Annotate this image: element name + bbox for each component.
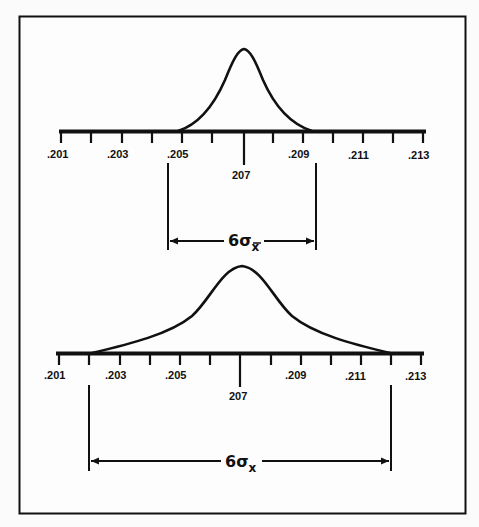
tick-label-205: .205 bbox=[167, 148, 188, 160]
tick-label-207-center: 207 bbox=[229, 390, 247, 402]
tick-label-205: .205 bbox=[165, 369, 186, 381]
tick-label-203: .203 bbox=[105, 369, 126, 381]
tick-label-209: .209 bbox=[288, 148, 309, 160]
tick-label-201: .201 bbox=[44, 369, 65, 381]
tick-label-207-center: 207 bbox=[232, 169, 250, 181]
tick-label-209: .209 bbox=[285, 369, 306, 381]
tick-label-213: .213 bbox=[408, 149, 429, 161]
distribution-comparison-diagram: .201 .203 .205 207 .209 .211 .213 6σx bbox=[0, 0, 479, 527]
tick-label-203: .203 bbox=[107, 148, 128, 160]
tick-label-213: .213 bbox=[405, 370, 426, 382]
tick-label-201: .201 bbox=[47, 148, 68, 160]
tick-label-211: .211 bbox=[348, 149, 369, 161]
tick-label-211: .211 bbox=[345, 370, 366, 382]
